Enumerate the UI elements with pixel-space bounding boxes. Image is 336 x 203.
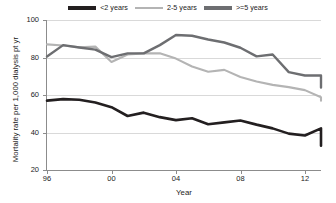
legend-item-5-plus-years[interactable]: >=5 years [204, 4, 268, 12]
series-line-5-plus-years [47, 35, 321, 88]
legend-swatch-under-2-years [68, 6, 96, 9]
y-tick-label-60: 60 [17, 91, 39, 99]
series-line-under-2-years [47, 99, 321, 146]
chart-legend: <2 years 2-5 years >=5 years [0, 0, 336, 16]
mortality-rate-line-chart: <2 years 2-5 years >=5 years 100 80 60 4… [0, 0, 336, 203]
series-line-2-to-5-years [47, 44, 321, 100]
legend-item-under-2-years[interactable]: <2 years [68, 4, 128, 12]
legend-label-under-2-years: <2 years [100, 4, 128, 12]
plot-area: 100 80 60 40 20 96 00 04 08 12 [47, 20, 321, 170]
y-tick-label-40: 40 [17, 129, 39, 137]
x-tick-label-2000: 00 [107, 174, 115, 183]
y-tick-label-20: 20 [17, 166, 39, 174]
legend-swatch-5-plus-years [204, 6, 232, 9]
x-tick-label-2012: 12 [301, 174, 309, 183]
x-tick-label-2004: 04 [172, 174, 180, 183]
legend-swatch-2-to-5-years [135, 7, 163, 9]
x-tick-label-2008: 08 [236, 174, 244, 183]
series-layer [47, 20, 321, 170]
y-tick-label-100: 100 [17, 16, 39, 24]
x-axis-line [46, 170, 321, 171]
y-tick-label-80: 80 [17, 54, 39, 62]
x-axis-title: Year [47, 188, 321, 197]
legend-item-2-to-5-years[interactable]: 2-5 years [135, 4, 197, 12]
legend-label-5-plus-years: >=5 years [236, 4, 268, 12]
y-axis-title: Mortality rate per 1,000 dialysis pt yr [11, 25, 20, 175]
legend-label-2-to-5-years: 2-5 years [167, 4, 197, 12]
x-tick-label-1996: 96 [43, 174, 51, 183]
